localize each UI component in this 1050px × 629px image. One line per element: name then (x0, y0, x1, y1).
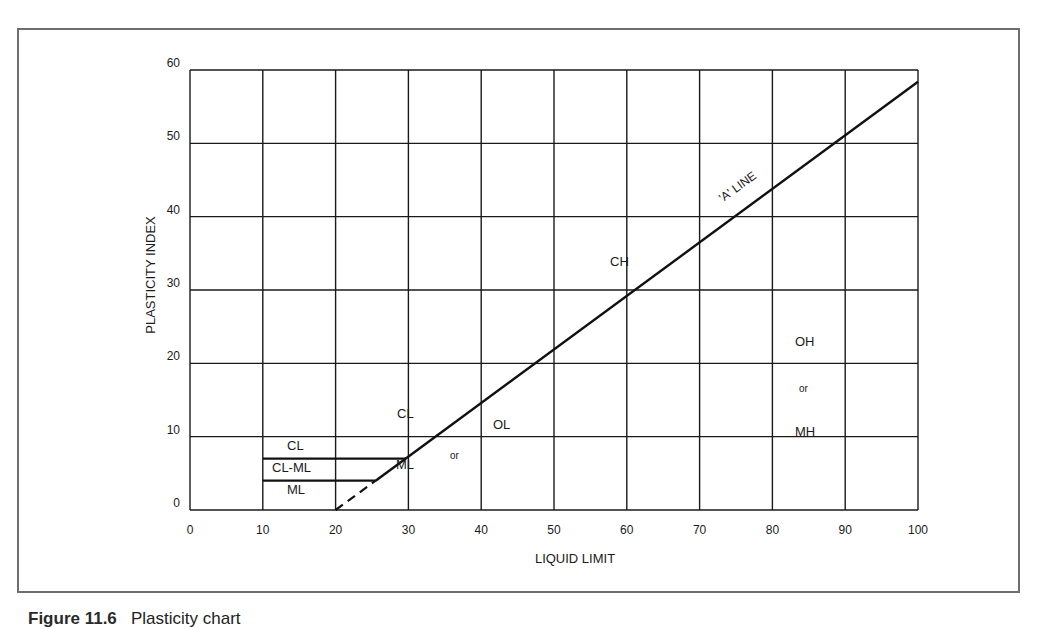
chart-lines (263, 82, 918, 510)
region-label-ml: ML (396, 457, 414, 472)
x-tick-label: 100 (908, 523, 928, 537)
series-line (336, 481, 376, 510)
x-tick-label: 80 (766, 523, 780, 537)
y-axis-title: PLASTICITY INDEX (143, 216, 158, 334)
x-tick-label: 20 (329, 523, 343, 537)
y-tick-label: 0 (173, 496, 180, 510)
a-line-label: 'A' LINE (716, 169, 759, 205)
y-tick-label: 10 (167, 423, 181, 437)
region-label-ol: OL (493, 417, 510, 432)
region-label-or-1: or (450, 450, 460, 461)
figure-number: Figure 11.6 (28, 609, 117, 628)
y-tick-label: 40 (167, 203, 181, 217)
figure-caption-text: Plasticity chart (131, 609, 241, 628)
y-tick-label: 60 (167, 56, 181, 70)
region-label-cl-small: CL (287, 438, 304, 453)
region-label-or-2: or (799, 383, 809, 394)
series-line (376, 82, 918, 481)
figure-caption: Figure 11.6 Plasticity chart (28, 609, 241, 629)
x-tick-label: 10 (256, 523, 270, 537)
x-tick-label: 40 (475, 523, 489, 537)
region-label-cl: CL (397, 406, 414, 421)
x-tick-label: 60 (620, 523, 634, 537)
region-label-cl-ml-small: CL-ML (272, 460, 311, 475)
x-axis-title: LIQUID LIMIT (535, 551, 615, 566)
x-tick-label: 0 (187, 523, 194, 537)
region-label-ch: CH (610, 254, 629, 269)
x-tick-label: 50 (547, 523, 561, 537)
x-tick-label: 70 (693, 523, 707, 537)
y-tick-label: 30 (167, 276, 181, 290)
x-tick-label: 90 (839, 523, 853, 537)
y-tick-label: 20 (167, 349, 181, 363)
region-label-oh: OH (795, 334, 815, 349)
x-tick-label: 30 (402, 523, 416, 537)
y-tick-label: 50 (167, 129, 181, 143)
region-label-mh: MH (795, 424, 815, 439)
region-label-ml-small: ML (287, 482, 305, 497)
